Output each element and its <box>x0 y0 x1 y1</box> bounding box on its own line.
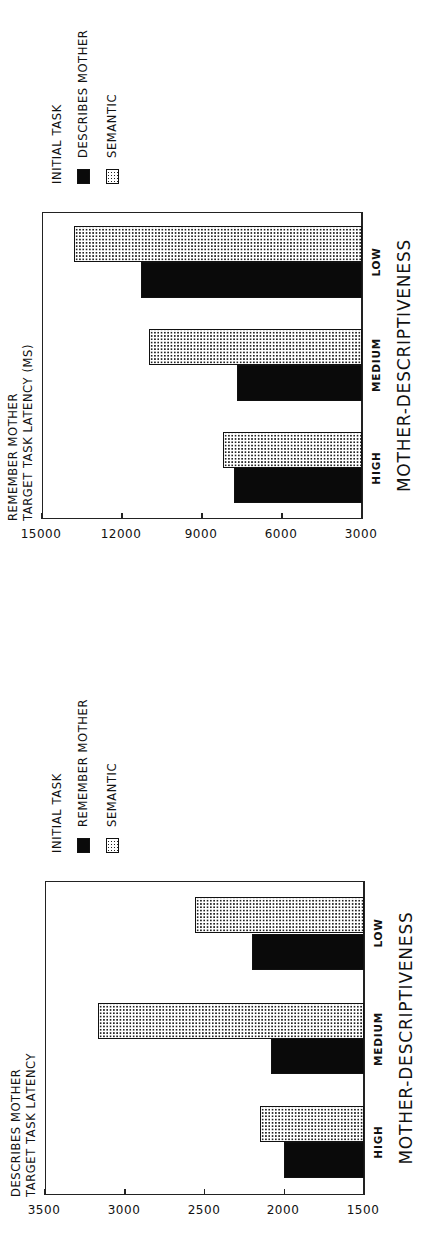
y-tick <box>201 513 203 519</box>
category-label: LOW <box>372 918 384 947</box>
category-label: LOW <box>370 247 382 276</box>
legend-item-label: SEMANTIC <box>105 763 119 827</box>
y-axis-title: DESCRIBES MOTHERTARGET TASK LATENCY <box>9 1053 39 1197</box>
legend-dotted-swatch-icon <box>106 169 119 184</box>
legend-title: INITIAL TASK <box>50 773 64 853</box>
legend-solid-swatch-icon <box>77 169 90 184</box>
category-label: HIGH <box>370 451 382 484</box>
legend-item: SEMANTIC <box>105 94 119 184</box>
category-label: MEDIUM <box>370 338 382 392</box>
y-axis-title-line: REMEMBER MOTHER <box>6 344 21 521</box>
bar-medium-initial-task <box>271 1038 364 1074</box>
y-tick <box>204 1189 206 1195</box>
y-tick <box>361 513 363 519</box>
y-tick <box>284 1189 286 1195</box>
legend-item: DESCRIBES MOTHER <box>76 30 90 184</box>
y-axis-title-line: TARGET TASK LATENCY <box>24 1053 39 1197</box>
y-tick-label: 6000 <box>265 527 298 541</box>
y-tick-label: 2000 <box>267 1203 300 1217</box>
y-tick <box>41 513 43 519</box>
chart-remember-mother: 3000600090001200015000REMEMBER MOTHERTAR… <box>0 0 438 560</box>
bar-medium-initial-task <box>237 365 362 401</box>
bar-low-initial-task <box>252 934 364 970</box>
y-tick-label: 15000 <box>21 527 62 541</box>
legend-title: INITIAL TASK <box>50 104 64 184</box>
y-tick <box>121 513 123 519</box>
y-axis-title: REMEMBER MOTHERTARGET TASK LATENCY (MS) <box>6 344 36 521</box>
y-axis-title-line: TARGET TASK LATENCY (MS) <box>21 344 36 521</box>
chart-describes-mother: 15002000250030003500DESCRIBES MOTHERTARG… <box>0 700 438 1259</box>
y-tick-label: 3500 <box>28 1203 61 1217</box>
x-axis-title: MOTHER-DESCRIPTIVENESS <box>396 911 416 1164</box>
y-tick <box>44 1189 46 1195</box>
bar-high-initial-task <box>284 1142 364 1178</box>
legend-item: SEMANTIC <box>105 763 119 853</box>
bar-low-semantic <box>74 226 362 262</box>
y-tick <box>281 513 283 519</box>
y-tick-label: 2500 <box>187 1203 220 1217</box>
y-tick <box>124 1189 126 1195</box>
legend-dotted-swatch-icon <box>106 838 119 853</box>
x-axis-title: MOTHER-DESCRIPTIVENESS <box>394 239 414 492</box>
y-tick-label: 1500 <box>347 1203 380 1217</box>
bar-medium-semantic <box>149 329 362 365</box>
bar-high-initial-task <box>234 467 362 503</box>
y-tick-label: 3000 <box>107 1203 140 1217</box>
bar-high-semantic <box>260 1106 364 1142</box>
y-axis-title-line: DESCRIBES MOTHER <box>9 1053 24 1197</box>
bar-medium-semantic <box>98 1003 364 1039</box>
y-tick-label: 3000 <box>345 527 378 541</box>
legend-item-label: REMEMBER MOTHER <box>76 699 90 827</box>
bar-low-initial-task <box>141 262 362 298</box>
category-label: HIGH <box>372 1125 384 1158</box>
legend-item-label: DESCRIBES MOTHER <box>76 30 90 158</box>
legend-item: REMEMBER MOTHER <box>76 699 90 853</box>
y-tick-label: 9000 <box>185 527 218 541</box>
legend-solid-swatch-icon <box>77 838 90 853</box>
category-label: MEDIUM <box>372 1012 384 1066</box>
legend-item-label: SEMANTIC <box>105 94 119 158</box>
bar-low-semantic <box>195 897 364 933</box>
y-tick-label: 12000 <box>101 527 142 541</box>
y-tick <box>363 1189 365 1195</box>
bar-high-semantic <box>223 432 362 468</box>
